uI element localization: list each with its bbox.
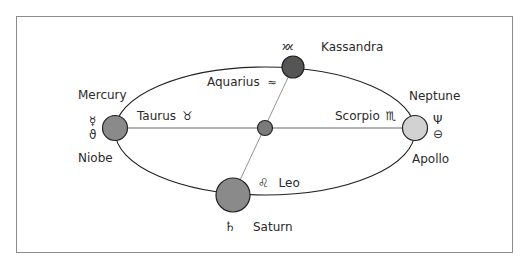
aquarius-text: Aquarius [207, 75, 260, 89]
label-taurus: Taurus ♉ [137, 109, 193, 123]
body-kassandra [282, 56, 304, 78]
leo-symbol-icon: ♌ [258, 176, 269, 190]
label-saturn: Saturn [253, 220, 293, 234]
label-neptune: Neptune [409, 89, 460, 103]
taurus-symbol-icon: ♉ [182, 109, 193, 123]
label-mercury: Mercury [78, 88, 127, 102]
label-leo: ♌ Leo [258, 176, 300, 190]
neptune-symbol-icon: Ψ [433, 113, 442, 127]
body-mercury [103, 116, 128, 141]
scorpio-symbol-icon: ♏ [386, 109, 397, 123]
scorpio-text: Scorpio [335, 109, 380, 123]
label-apollo: Apollo [412, 152, 449, 166]
label-aquarius: Aquarius ≈ [207, 75, 276, 90]
label-kassandra: Kassandra [321, 40, 383, 54]
taurus-text: Taurus [137, 109, 176, 123]
saturn-symbol-icon: ♄ [224, 220, 236, 234]
mercury-symbol-icon: ☿ [89, 114, 96, 128]
body-saturn [216, 178, 250, 212]
body-neptune [403, 116, 428, 141]
body-center [258, 121, 273, 136]
leo-text: Leo [279, 176, 300, 190]
apollo-symbol-icon: ⊖ [433, 127, 443, 141]
label-niobe: Niobe [78, 151, 113, 165]
kassandra-symbol-icon: ϰϰ [282, 40, 291, 54]
label-scorpio: Scorpio ♏ [335, 109, 396, 123]
niobe-symbol-icon: ϑ [89, 128, 96, 142]
aquarius-symbol-icon: ≈ [268, 76, 276, 89]
